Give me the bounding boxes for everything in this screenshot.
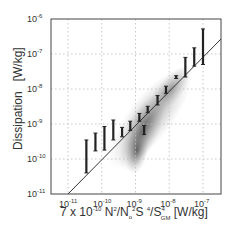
reference-line	[68, 39, 221, 194]
y-tick-label: 10-11	[27, 188, 46, 199]
y-tick-labels: 10-610-710-810-910-1010-11	[27, 13, 46, 199]
y-axis-label: Dissipation [W/kg]	[11, 47, 25, 150]
y-tick-label: 10-8	[27, 83, 43, 94]
x-axis-label: 7 x 10-10 N2/No2S 4/S4GM [W/kg]	[60, 205, 208, 221]
y-tick-label: 10-9	[27, 118, 43, 129]
y-tick-label: 10-6	[27, 13, 43, 24]
y-tick-label: 10-7	[27, 48, 43, 59]
y-tick-label: 10-10	[27, 153, 46, 164]
density-cloud	[94, 56, 205, 181]
chart: 10-1110-1010-910-810-7 10-610-710-810-91…	[0, 0, 236, 243]
